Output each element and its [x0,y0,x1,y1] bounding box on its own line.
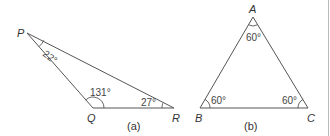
vertex-label-c: C [307,112,315,124]
angle-label-r: 27° [141,97,156,108]
vertex-label-r: R [172,112,180,124]
angle-label-q: 131° [90,87,111,98]
angle-arc-b [205,99,210,108]
vertex-label-p: P [17,27,25,39]
vertex-label-b: B [195,112,202,124]
caption-a: (a) [127,120,140,132]
angle-label-c: 60° [282,95,297,106]
triangles-diagram: P Q R 22° 131° 27° (a) A B C 60° 60° 60°… [0,0,330,136]
angle-label-p: 22° [41,48,60,66]
triangle-abc: A B C 60° 60° 60° (b) [195,3,315,132]
caption-b: (b) [244,120,257,132]
angle-arc-r [162,103,163,108]
angle-label-b: 60° [211,95,226,106]
triangle-pqr: P Q R 22° 131° 27° (a) [17,27,180,132]
vertex-label-q: Q [87,112,96,124]
angle-arc-p [39,40,44,46]
angle-arc-c [298,99,303,108]
angle-arc-a [249,25,258,26]
angle-label-a: 60° [246,32,261,43]
vertex-label-a: A [248,3,256,15]
